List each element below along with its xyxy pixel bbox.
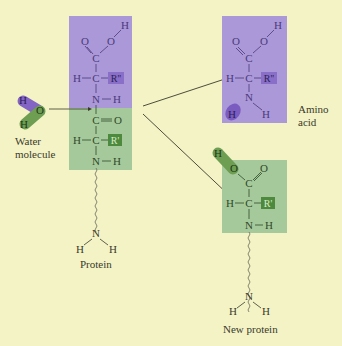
water-label: Water molecule	[15, 135, 55, 161]
svg-text:N: N	[245, 91, 253, 103]
svg-text:H: H	[226, 72, 234, 84]
svg-text:H: H	[226, 197, 234, 209]
new-protein: H O O C H C N H R' N H H	[214, 147, 287, 317]
svg-text:H: H	[265, 219, 273, 231]
svg-text:H: H	[214, 147, 222, 159]
svg-text:O: O	[114, 114, 122, 126]
svg-text:C: C	[92, 72, 99, 84]
svg-text:H: H	[109, 243, 117, 255]
svg-text:N: N	[245, 219, 253, 231]
svg-text:C: C	[245, 52, 252, 64]
svg-text:C: C	[245, 197, 252, 209]
protein-terminal: N H H	[76, 227, 117, 255]
svg-text:H: H	[76, 243, 84, 255]
svg-text:H: H	[262, 108, 270, 120]
svg-text:R'': R''	[264, 73, 274, 84]
svg-text:C: C	[92, 134, 99, 146]
svg-text:R': R'	[264, 198, 273, 209]
svg-text:H: H	[121, 19, 129, 31]
svg-text:O: O	[230, 162, 238, 174]
svg-text:H: H	[73, 72, 81, 84]
svg-text:H: H	[274, 19, 282, 31]
svg-text:O: O	[81, 35, 89, 47]
svg-text:H: H	[113, 93, 121, 105]
amino-acid: O O H C H C N H R'' H	[222, 16, 287, 123]
svg-text:N: N	[245, 290, 253, 302]
polypeptide-chain	[95, 168, 97, 232]
protein-label: Protein	[80, 258, 112, 271]
svg-text:H: H	[20, 118, 28, 130]
left-protein: O O H C H C N H R'' C O H C N	[69, 16, 132, 255]
svg-text:N: N	[92, 227, 100, 239]
svg-text:C: C	[92, 114, 99, 126]
svg-text:H: H	[113, 155, 121, 167]
svg-text:N: N	[92, 155, 100, 167]
svg-text:N: N	[92, 93, 100, 105]
svg-text:R': R'	[111, 135, 120, 146]
amino-acid-label: Amino acid	[298, 103, 329, 129]
svg-text:C: C	[245, 72, 252, 84]
svg-text:R'': R''	[111, 73, 121, 84]
svg-text:H: H	[262, 305, 270, 317]
svg-text:O: O	[260, 162, 268, 174]
svg-text:O: O	[232, 35, 240, 47]
hydrolysis-diagram: O O H C H C N H R'' C O H C N	[0, 0, 342, 346]
svg-text:H: H	[229, 305, 237, 317]
svg-text:O: O	[36, 104, 44, 116]
new-protein-label: New protein	[223, 323, 278, 336]
svg-text:C: C	[92, 52, 99, 64]
svg-text:H: H	[19, 94, 27, 106]
svg-text:C: C	[245, 177, 252, 189]
svg-text:H: H	[73, 134, 81, 146]
svg-text:H: H	[228, 108, 236, 120]
